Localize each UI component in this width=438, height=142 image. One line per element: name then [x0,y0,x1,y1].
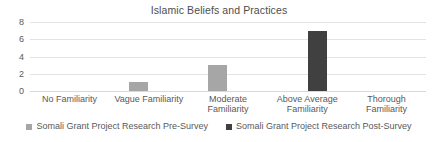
chart-title: Islamic Beliefs and Practices [0,4,438,16]
bar-group [30,22,109,91]
x-axis-label-1: Vague Familiarity [109,94,188,114]
legend-label-1: Somali Grant Project Research Post-Surve… [236,122,412,131]
bar-group [347,22,426,91]
y-axis: 02468 [0,22,28,91]
y-tick-label-0: 0 [19,87,24,96]
y-tick-label-2: 2 [19,69,24,78]
legend-swatch-icon-1 [226,124,232,130]
y-tick-label-6: 6 [19,35,24,44]
x-axis-label-4: Thorough Familiarity [347,94,426,114]
y-tick-label-8: 8 [19,18,24,27]
y-tick-label-4: 4 [19,52,24,61]
legend-item-0[interactable]: Somali Grant Project Research Pre-Survey [26,122,208,131]
x-axis-label-2: Moderate Familiarity [188,94,267,114]
x-axis-label-0: No Familiarity [30,94,109,114]
x-axis: No FamiliarityVague FamiliarityModerate … [30,94,426,114]
gridline-0 [30,91,426,92]
bar-pre-1[interactable] [129,82,148,91]
bar-group [188,22,267,91]
legend-swatch-icon-0 [26,124,32,130]
legend-item-1[interactable]: Somali Grant Project Research Post-Surve… [226,122,412,131]
bar-chart: Islamic Beliefs and Practices 02468 No F… [0,0,438,142]
plot-area [30,22,426,91]
legend-label-0: Somali Grant Project Research Pre-Survey [36,122,208,131]
bar-group [109,22,188,91]
bar-post-3[interactable] [308,31,327,91]
bars-layer [30,22,426,91]
chart-legend: Somali Grant Project Research Pre-Survey… [0,122,438,131]
bar-pre-2[interactable] [208,65,227,91]
bar-group [268,22,347,91]
x-axis-label-3: Above Average Familiarity [268,94,347,114]
